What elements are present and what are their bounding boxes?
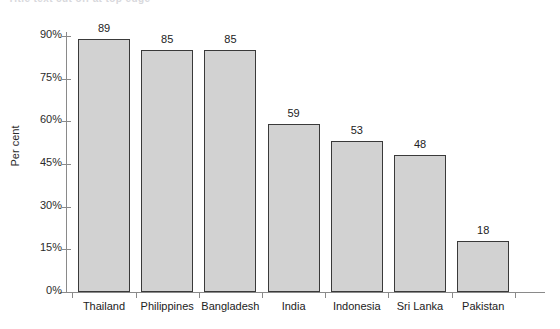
y-axis-tick: 15% xyxy=(0,249,74,250)
y-axis-tick-label: 75% xyxy=(40,71,62,83)
x-axis-tick-mark xyxy=(136,293,137,298)
y-axis-tick-label: 90% xyxy=(40,28,62,40)
y-axis-tick-mark xyxy=(62,79,71,80)
x-axis-tick-mark xyxy=(388,293,389,298)
bar-value-label: 85 xyxy=(200,33,260,45)
y-axis-tick-mark xyxy=(62,207,71,208)
y-axis-tick: 30% xyxy=(0,207,74,208)
x-axis-line xyxy=(60,292,545,293)
y-axis-tick-label: 15% xyxy=(40,241,62,253)
y-axis-tick: 75% xyxy=(0,79,74,80)
bar xyxy=(457,241,509,292)
y-axis-tick: 45% xyxy=(0,164,74,165)
bar-value-label: 89 xyxy=(74,22,134,34)
bar-value-label: 18 xyxy=(453,224,513,236)
bar xyxy=(331,141,383,292)
y-axis-tick-mark xyxy=(62,292,71,293)
y-axis-tick-label: 30% xyxy=(40,199,62,211)
bar-value-label: 59 xyxy=(264,107,324,119)
y-axis-title: Per cent xyxy=(9,106,21,186)
x-axis-category-label: Pakistan xyxy=(438,300,528,312)
x-axis-tick-mark xyxy=(515,293,516,298)
y-axis-tick: 0% xyxy=(0,292,74,293)
x-axis-tick-mark xyxy=(72,293,73,298)
bar xyxy=(141,50,193,292)
y-axis-line xyxy=(66,32,67,293)
x-axis-tick-mark xyxy=(325,293,326,298)
bar-value-label: 85 xyxy=(137,33,197,45)
y-axis-tick-label: 60% xyxy=(40,113,62,125)
y-axis-tick: 60% xyxy=(0,121,74,122)
y-axis-tick-label: 0% xyxy=(46,284,62,296)
y-axis-tick-mark xyxy=(62,164,71,165)
bar xyxy=(204,50,256,292)
y-axis-tick-label: 45% xyxy=(40,156,62,168)
cut-off-header-text: Title text cut off at top edge xyxy=(8,0,208,5)
x-axis-tick-mark xyxy=(199,293,200,298)
x-axis-tick-mark xyxy=(262,293,263,298)
bar-value-label: 53 xyxy=(327,124,387,136)
bar xyxy=(78,39,130,292)
bar-value-label: 48 xyxy=(390,138,450,150)
x-axis-tick-mark xyxy=(452,293,453,298)
y-axis-tick-mark xyxy=(62,36,71,37)
bar xyxy=(268,124,320,292)
bar-chart-figure: Title text cut off at top edge Per cent … xyxy=(0,0,560,329)
y-axis-tick-mark xyxy=(62,121,71,122)
y-axis-tick-mark xyxy=(62,249,71,250)
bar xyxy=(394,155,446,292)
y-axis-tick: 90% xyxy=(0,36,74,37)
